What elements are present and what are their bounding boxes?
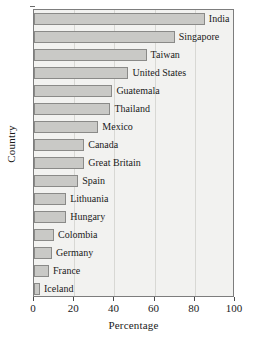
- bar: [34, 85, 112, 97]
- bar-row: United States: [34, 67, 233, 79]
- bar: [34, 247, 52, 259]
- bar-category-label: Great Britain: [84, 158, 140, 168]
- bar-row: Hungary: [34, 211, 233, 223]
- bar: [34, 211, 66, 223]
- bar: [34, 265, 49, 277]
- x-tick-label: 20: [53, 301, 93, 315]
- bar-row: Guatemala: [34, 85, 233, 97]
- x-tick-label: 80: [174, 301, 214, 315]
- x-tick-label: 40: [93, 301, 133, 315]
- bar-row: Germany: [34, 247, 233, 259]
- bar-category-label: Canada: [84, 140, 118, 150]
- bar: [34, 193, 66, 205]
- bar-category-label: Lithuania: [66, 194, 108, 204]
- bar-category-label: Colombia: [54, 230, 97, 240]
- bar-row: Spain: [34, 175, 233, 187]
- x-axis-title: Percentage: [33, 319, 234, 331]
- bar-row: India: [34, 13, 233, 25]
- x-tick-label: 60: [134, 301, 174, 315]
- bar-category-label: Mexico: [98, 122, 133, 132]
- bar-row: Great Britain: [34, 157, 233, 169]
- x-tick-label: 100: [214, 301, 254, 315]
- bar-category-label: Spain: [78, 176, 105, 186]
- bar: [34, 157, 84, 169]
- bar: [34, 31, 175, 43]
- bar: [34, 175, 78, 187]
- bar-series: IndiaSingaporeTaiwanUnited StatesGuatema…: [34, 10, 233, 296]
- top-left-tick-mark: [30, 6, 35, 7]
- bar-category-label: Guatemala: [112, 86, 159, 96]
- bar-category-label: Taiwan: [147, 50, 180, 60]
- bar-category-label: India: [205, 14, 230, 24]
- y-axis-title: Country: [5, 109, 17, 179]
- bar: [34, 103, 110, 115]
- bar: [34, 13, 205, 25]
- bar-chart-figure: Country IndiaSingaporeTaiwanUnited State…: [0, 0, 259, 342]
- bar-category-label: Hungary: [66, 212, 105, 222]
- bar-row: Thailand: [34, 103, 233, 115]
- bar-category-label: Thailand: [110, 104, 150, 114]
- bar-row: Taiwan: [34, 49, 233, 61]
- bar: [34, 67, 128, 79]
- bar-category-label: Singapore: [175, 32, 220, 42]
- bar-category-label: Iceland: [40, 284, 73, 294]
- bar-category-label: France: [49, 266, 80, 276]
- bar: [34, 229, 54, 241]
- bar: [34, 49, 147, 61]
- bar: [34, 139, 84, 151]
- bar-row: Colombia: [34, 229, 233, 241]
- bar: [34, 121, 98, 133]
- bar-row: Canada: [34, 139, 233, 151]
- x-tick-label: 0: [13, 301, 53, 315]
- bar-category-label: United States: [128, 68, 186, 78]
- bar-row: Lithuania: [34, 193, 233, 205]
- bar-row: Iceland: [34, 283, 233, 295]
- bar-row: Singapore: [34, 31, 233, 43]
- bar-row: France: [34, 265, 233, 277]
- plot-area: IndiaSingaporeTaiwanUnited StatesGuatema…: [33, 9, 234, 297]
- bar-row: Mexico: [34, 121, 233, 133]
- bar-category-label: Germany: [52, 248, 93, 258]
